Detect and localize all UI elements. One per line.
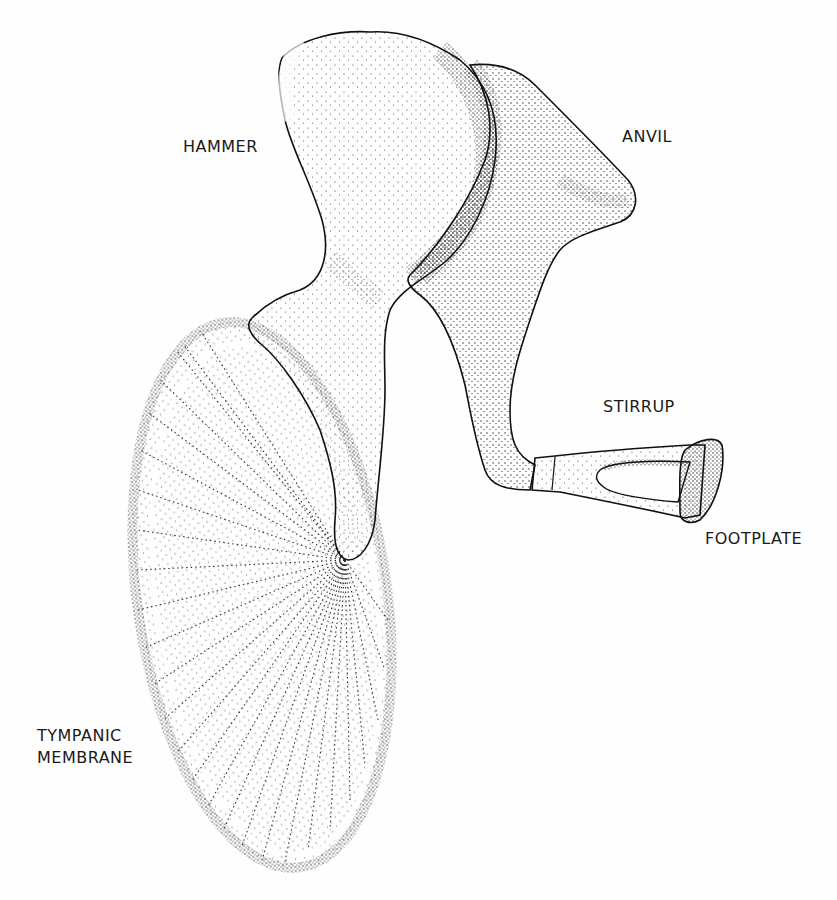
tympanic-membrane-label: TYMPANIC MEMBRANE xyxy=(37,725,133,769)
footplate-shape xyxy=(680,439,723,522)
footplate-label: FOOTPLATE xyxy=(705,528,802,550)
tympanic-label-line2: MEMBRANE xyxy=(37,747,133,769)
ear-ossicles-diagram: HAMMER ANVIL STIRRUP FOOTPLATE TYMPANIC … xyxy=(0,0,837,900)
anvil-label: ANVIL xyxy=(622,126,672,148)
stirrup-label: STIRRUP xyxy=(603,396,675,418)
tympanic-label-line1: TYMPANIC xyxy=(37,725,133,747)
hammer-label: HAMMER xyxy=(183,136,258,158)
